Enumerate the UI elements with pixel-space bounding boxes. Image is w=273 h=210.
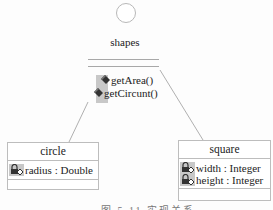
operation-label: getArea()	[111, 74, 153, 86]
private-attribute-icon	[180, 174, 195, 186]
class-square[interactable]: square width : Integer height : Integer	[178, 140, 271, 201]
realization-line-circle	[69, 102, 88, 142]
interface-name[interactable]: shapes	[90, 36, 160, 48]
attribute-label: width : Integer	[196, 162, 261, 174]
operation-label: getCircunt()	[104, 87, 158, 99]
interface-divider-bottom	[88, 66, 159, 67]
operation-getcircunt[interactable]: getCircunt()	[93, 87, 158, 100]
private-attribute-icon	[180, 162, 195, 174]
attribute-compartment: width : Integer height : Integer	[179, 159, 270, 189]
interface-divider-top	[88, 59, 159, 60]
operation-getarea[interactable]: getArea()	[100, 74, 153, 87]
interface-lollipop-icon[interactable]	[116, 3, 136, 23]
realization-line-square	[160, 70, 203, 140]
attribute-radius[interactable]: radius : Double	[8, 164, 98, 176]
public-operation-icon	[100, 75, 111, 85]
attribute-label: radius : Double	[25, 164, 93, 176]
attribute-width[interactable]: width : Integer	[179, 162, 270, 174]
attribute-compartment: radius : Double	[8, 161, 98, 180]
private-attribute-icon	[9, 164, 24, 176]
class-circle[interactable]: circle radius : Double	[7, 142, 99, 190]
class-name: square	[179, 141, 270, 159]
attribute-height[interactable]: height : Integer	[179, 174, 270, 186]
attribute-label: height : Integer	[196, 174, 263, 186]
figure-caption: 图 5.11 实现关系	[88, 202, 208, 210]
class-name: circle	[8, 143, 98, 161]
public-operation-icon	[93, 88, 104, 98]
